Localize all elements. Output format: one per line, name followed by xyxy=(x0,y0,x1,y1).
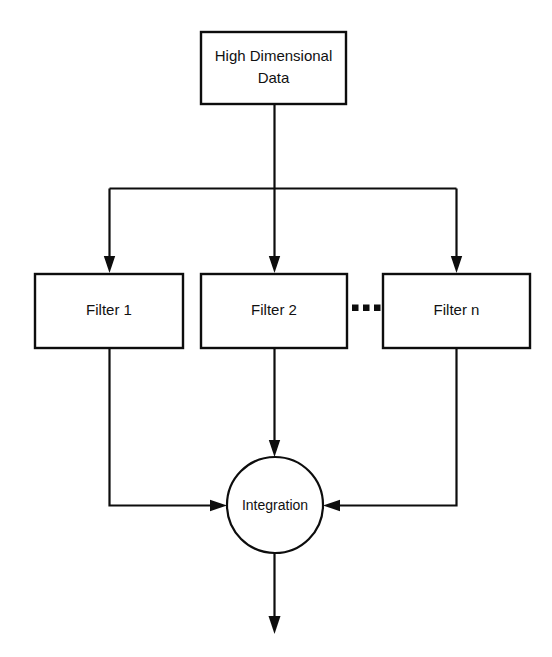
edge-filter-2-to-integration xyxy=(269,348,280,457)
edge-filter-1-to-integration xyxy=(110,348,228,511)
edge-integration-output xyxy=(269,553,281,634)
node-filter-n-label: Filter n xyxy=(434,301,480,318)
node-filter-n[interactable]: Filter n xyxy=(383,274,530,348)
node-source-label-line2: Data xyxy=(258,69,290,86)
node-high-dimensional-data[interactable]: High Dimensional Data xyxy=(201,32,346,104)
node-filter-2[interactable]: Filter 2 xyxy=(201,274,347,348)
filter-ellipsis-icon xyxy=(352,305,381,312)
node-integration[interactable]: Integration xyxy=(227,457,323,553)
edge-source-to-filter-2 xyxy=(269,189,280,274)
node-source-label-line1: High Dimensional xyxy=(215,47,333,64)
edge-source-to-filter-1 xyxy=(104,189,115,274)
edge-source-to-filter-n xyxy=(451,189,462,274)
node-integration-label: Integration xyxy=(242,497,308,513)
diagram-canvas: High Dimensional Data Filter 1 Filter 2 … xyxy=(0,0,552,657)
edge-filter-n-to-integration xyxy=(323,348,457,511)
node-filter-1[interactable]: Filter 1 xyxy=(35,274,183,348)
flowchart-svg: High Dimensional Data Filter 1 Filter 2 … xyxy=(0,0,552,657)
node-filter-2-label: Filter 2 xyxy=(251,301,297,318)
node-filter-1-label: Filter 1 xyxy=(86,301,132,318)
